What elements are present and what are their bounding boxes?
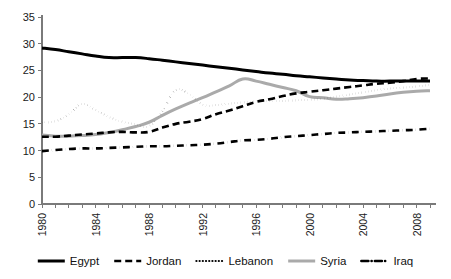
y-axis-tick-label: 20 bbox=[23, 91, 35, 103]
x-axis-tick-label: 1988 bbox=[143, 213, 155, 237]
x-axis-tick-label: 2008 bbox=[411, 213, 423, 237]
x-axis-tick-label: 1984 bbox=[90, 213, 102, 237]
x-axis-tick-label: 1980 bbox=[36, 213, 48, 237]
series-line-jordan bbox=[42, 78, 430, 136]
series-line-syria bbox=[42, 79, 430, 137]
plot-area: 0510152025303519801984198819921996200020… bbox=[23, 11, 436, 267]
y-axis-tick-label: 5 bbox=[29, 171, 35, 183]
y-axis-tick-label: 15 bbox=[23, 118, 35, 130]
x-axis-tick-label: 2000 bbox=[304, 213, 316, 237]
x-axis-tick-label: 1992 bbox=[197, 213, 209, 237]
line-chart-figure: 0510152025303519801984198819921996200020… bbox=[0, 0, 451, 279]
legend-label-egypt: Egypt bbox=[70, 255, 100, 267]
y-axis-tick-label: 35 bbox=[23, 11, 35, 23]
series-line-lebanon bbox=[42, 85, 430, 127]
x-axis-tick-label: 1996 bbox=[250, 213, 262, 237]
legend-label-syria: Syria bbox=[320, 255, 347, 267]
legend-label-iraq: Iraq bbox=[393, 255, 413, 267]
y-axis-tick-label: 30 bbox=[23, 38, 35, 50]
legend-label-lebanon: Lebanon bbox=[228, 255, 273, 267]
y-axis-tick-label: 10 bbox=[23, 145, 35, 157]
y-axis-tick-label: 0 bbox=[29, 198, 35, 210]
x-axis-tick-label: 2004 bbox=[357, 213, 369, 237]
chart-canvas: 0510152025303519801984198819921996200020… bbox=[0, 0, 451, 279]
series-line-egypt bbox=[42, 48, 430, 81]
y-axis-tick-label: 25 bbox=[23, 64, 35, 76]
legend-label-jordan: Jordan bbox=[146, 255, 181, 267]
